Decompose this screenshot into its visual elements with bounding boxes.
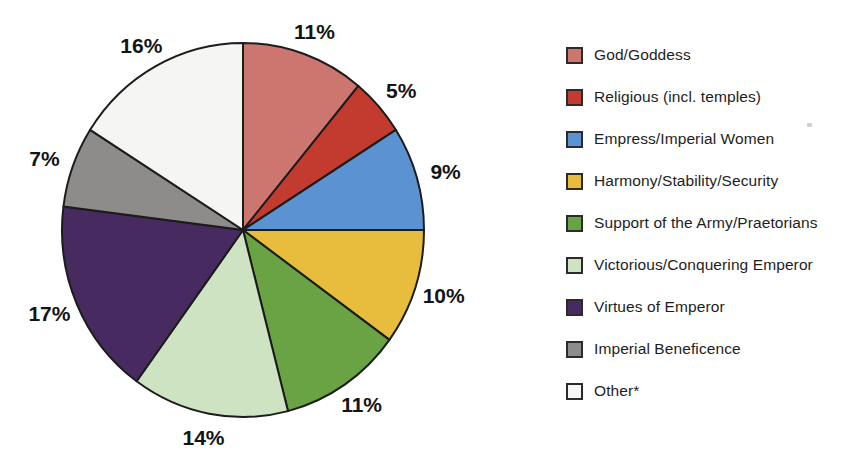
legend-swatch-icon xyxy=(566,89,583,106)
legend-label: Religious (incl. temples) xyxy=(594,88,761,106)
legend-swatch-icon xyxy=(566,215,583,232)
legend-swatch-icon xyxy=(566,173,583,190)
legend-label: God/Goddess xyxy=(594,46,691,64)
pie-chart-figure: 11%5%9%10%11%14%17%7%16% God/GoddessReli… xyxy=(0,0,847,453)
legend-item-harmony-stability-security: Harmony/Stability/Security xyxy=(566,160,818,202)
slice-percent-label-victorious-conquering-emperor: 14% xyxy=(182,426,224,449)
legend-item-religious-incl-temples: Religious (incl. temples) xyxy=(566,76,818,118)
chart-legend: God/GoddessReligious (incl. temples)Empr… xyxy=(566,34,818,412)
legend-item-support-of-the-army-praetorians: Support of the Army/Praetorians xyxy=(566,202,818,244)
legend-label: Victorious/Conquering Emperor xyxy=(594,256,813,274)
legend-label: Harmony/Stability/Security xyxy=(594,172,778,190)
legend-swatch-icon xyxy=(566,131,583,148)
legend-label: Support of the Army/Praetorians xyxy=(594,214,818,232)
scan-artifact-dot xyxy=(807,123,812,127)
legend-swatch-icon xyxy=(566,257,583,274)
legend-item-other: Other* xyxy=(566,370,818,412)
legend-item-virtues-of-emperor: Virtues of Emperor xyxy=(566,286,818,328)
slice-percent-label-support-of-the-army-praetorians: 11% xyxy=(341,393,382,416)
legend-item-imperial-beneficence: Imperial Beneficence xyxy=(566,328,818,370)
legend-item-god-goddess: God/Goddess xyxy=(566,34,818,76)
legend-swatch-icon xyxy=(566,47,583,64)
pie-chart: 11%5%9%10%11%14%17%7%16% xyxy=(0,0,560,453)
legend-label: Imperial Beneficence xyxy=(594,340,741,358)
legend-label: Empress/Imperial Women xyxy=(594,130,774,148)
slice-percent-label-empress-imperial-women: 9% xyxy=(430,160,461,183)
legend-label: Virtues of Emperor xyxy=(594,298,725,316)
slice-percent-label-virtues-of-emperor: 17% xyxy=(28,302,70,325)
slice-percent-label-god-goddess: 11% xyxy=(294,20,335,43)
legend-swatch-icon xyxy=(566,299,583,316)
legend-label: Other* xyxy=(594,382,639,400)
legend-swatch-icon xyxy=(566,341,583,358)
legend-swatch-icon xyxy=(566,383,583,400)
slice-percent-label-imperial-beneficence: 7% xyxy=(29,147,60,170)
slice-percent-label-religious-incl-temples: 5% xyxy=(386,79,417,102)
legend-item-victorious-conquering-emperor: Victorious/Conquering Emperor xyxy=(566,244,818,286)
legend-item-empress-imperial-women: Empress/Imperial Women xyxy=(566,118,818,160)
slice-percent-label-other: 16% xyxy=(120,34,162,57)
slice-percent-label-harmony-stability-security: 10% xyxy=(423,284,465,307)
